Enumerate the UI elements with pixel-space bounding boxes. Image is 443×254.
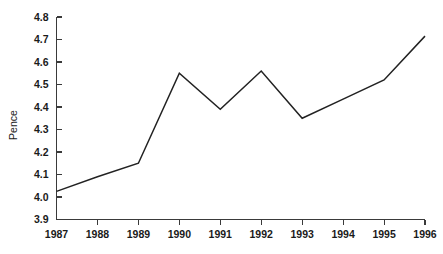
chart-page: Pence 3.94.04.14.24.34.44.54.64.74.8 198…: [0, 0, 443, 254]
x-axis-tick-label: 1988: [86, 228, 110, 240]
data-series-line: [57, 36, 426, 191]
y-axis-tick-label: 4.2: [34, 146, 49, 158]
x-axis-tick-labels: 1987198819891990199119921993199419951996: [45, 228, 437, 240]
y-axis-tick-label: 4.1: [34, 168, 49, 180]
x-axis-tick-label: 1992: [250, 228, 274, 240]
x-axis-tick-marks: [97, 220, 425, 225]
y-axis-tick-label: 4.4: [34, 101, 49, 113]
y-axis-tick-label: 4.5: [34, 78, 49, 90]
y-axis-tick-label: 3.9: [34, 213, 49, 225]
line-chart: Pence 3.94.04.14.24.34.44.54.64.74.8 198…: [0, 0, 443, 254]
y-axis-title-label: Pence: [7, 110, 19, 140]
y-axis-tick-label: 4.0: [34, 191, 49, 203]
x-axis-tick-label: 1990: [168, 228, 192, 240]
y-axis-tick-labels: 3.94.04.14.24.34.44.54.64.74.8: [34, 11, 49, 226]
x-axis-tick-label: 1991: [209, 228, 233, 240]
x-axis-tick-label: 1996: [413, 228, 437, 240]
x-axis-tick-label: 1993: [290, 228, 314, 240]
y-axis-tick-label: 4.6: [34, 56, 49, 68]
y-axis-tick-label: 4.3: [34, 123, 49, 135]
y-axis-tick-label: 4.8: [34, 11, 49, 23]
x-axis-tick-label: 1989: [127, 228, 151, 240]
y-axis-title: Pence: [7, 110, 19, 140]
x-axis-tick-label: 1995: [372, 228, 396, 240]
y-axis-tick-label: 4.7: [34, 33, 49, 45]
x-axis-tick-label: 1987: [45, 228, 69, 240]
x-axis-tick-label: 1994: [331, 228, 355, 240]
